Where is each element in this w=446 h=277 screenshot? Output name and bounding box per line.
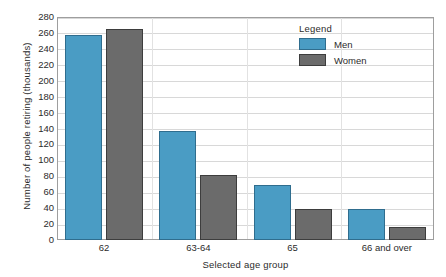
y-axis-tick-label: 100 — [28, 155, 54, 165]
y-axis-tick-labels: 280260240220200180160140120100806040200 — [25, 17, 54, 240]
legend-label-women: Women — [334, 55, 367, 66]
y-axis-tick-label: 260 — [28, 28, 54, 38]
x-axis-tick-label: 63-64 — [148, 242, 248, 254]
y-axis-tick-label: 220 — [28, 60, 54, 70]
bar-men-66-and-over — [348, 209, 385, 240]
legend-swatch-women-icon — [299, 54, 326, 66]
x-axis-tick-label: 66 and over — [337, 242, 437, 254]
bar-women-65 — [295, 209, 332, 240]
y-axis-tick-label: 200 — [28, 76, 54, 86]
y-axis-tick-label: 40 — [28, 203, 54, 213]
bar-men-62 — [65, 35, 102, 240]
x-axis-title: Selected age group — [57, 259, 434, 270]
legend-item-women: Women — [299, 54, 391, 66]
y-axis-tick-label: 180 — [28, 92, 54, 102]
y-axis-tick-label: 80 — [28, 171, 54, 181]
legend-item-men: Men — [299, 38, 391, 50]
bar-chart: Number of people retiring (thousands) 28… — [0, 0, 446, 277]
bar-women-66-and-over — [389, 227, 426, 240]
bar-women-63-64 — [200, 175, 237, 240]
y-axis-tick-label: 20 — [28, 219, 54, 229]
bar-men-63-64 — [159, 131, 196, 240]
y-axis-tick-label: 60 — [28, 187, 54, 197]
y-axis-tick-label: 280 — [28, 12, 54, 22]
x-axis-tick-label: 62 — [54, 242, 154, 254]
y-axis-tick-label: 240 — [28, 44, 54, 54]
bar-men-65 — [254, 185, 291, 240]
legend-swatch-men-icon — [299, 38, 326, 50]
y-axis-tick-label: 140 — [28, 124, 54, 134]
x-axis-tick-label: 65 — [243, 242, 343, 254]
y-axis-tick-label: 120 — [28, 139, 54, 149]
y-axis-tick-label: 0 — [28, 235, 54, 245]
legend-label-men: Men — [334, 39, 352, 50]
legend-title: Legend — [299, 23, 391, 34]
legend: Legend Men Women — [299, 23, 391, 70]
x-axis-tick-labels: 6263-646566 and over — [57, 242, 434, 256]
bar-women-62 — [106, 29, 143, 240]
y-axis-tick-label: 160 — [28, 108, 54, 118]
